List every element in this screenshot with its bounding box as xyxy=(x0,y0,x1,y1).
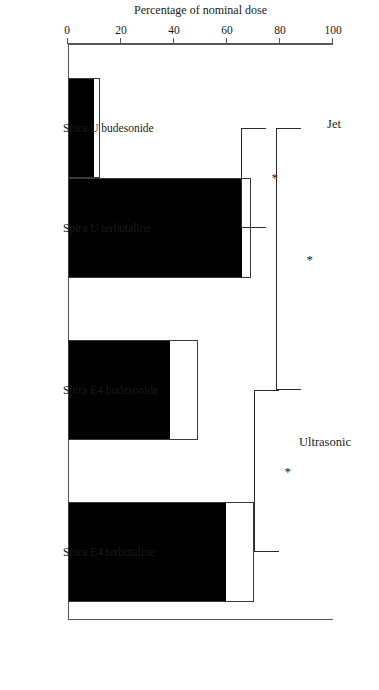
axis-tick-label-100: 100 xyxy=(324,24,342,36)
significance-bracket-ultrasonic-pair xyxy=(241,128,266,228)
axis-tick-label-60: 60 xyxy=(220,24,234,36)
value-axis-line xyxy=(68,43,333,44)
group-label-jet: Jet xyxy=(327,117,341,132)
bar-segment-white xyxy=(227,503,254,601)
axis-tick-40 xyxy=(173,38,174,44)
axis-tick-80 xyxy=(279,38,280,44)
significance-star-budesonide-pair: * xyxy=(307,253,314,266)
group-label-ultrasonic: Ultrasonic xyxy=(299,435,351,450)
axis-tick-0 xyxy=(67,38,68,44)
axis-tick-100 xyxy=(332,38,333,44)
significance-bracket-budesonide-pair xyxy=(276,128,301,390)
category-label-spira-u-budesonide: Spira U budesonide xyxy=(63,122,213,134)
axis-tick-label-0: 0 xyxy=(60,24,74,36)
figure-rotator: 0 20 40 60 80 100 Percentage of nominal … xyxy=(0,0,379,690)
axis-tick-label-80: 80 xyxy=(273,24,287,36)
significance-star-jet-pair: * xyxy=(285,465,292,478)
bar-chart: 0 20 40 60 80 100 Percentage of nominal … xyxy=(0,0,379,690)
axis-tick-20 xyxy=(120,38,121,44)
axis-tick-60 xyxy=(226,38,227,44)
category-label-spira-e4-budesonide: Spira E4 budesonide xyxy=(63,384,213,396)
axis-tick-label-20: 20 xyxy=(114,24,128,36)
axis-tick-label-40: 40 xyxy=(167,24,181,36)
category-label-spira-u-terbutaline: Spira U terbutaline xyxy=(63,222,213,234)
significance-bracket-jet-pair xyxy=(254,390,279,552)
value-axis-title: Percentage of nominal dose xyxy=(68,3,333,18)
category-label-spira-e4-terbutaline: Spira E4 terbutaline xyxy=(63,546,213,558)
